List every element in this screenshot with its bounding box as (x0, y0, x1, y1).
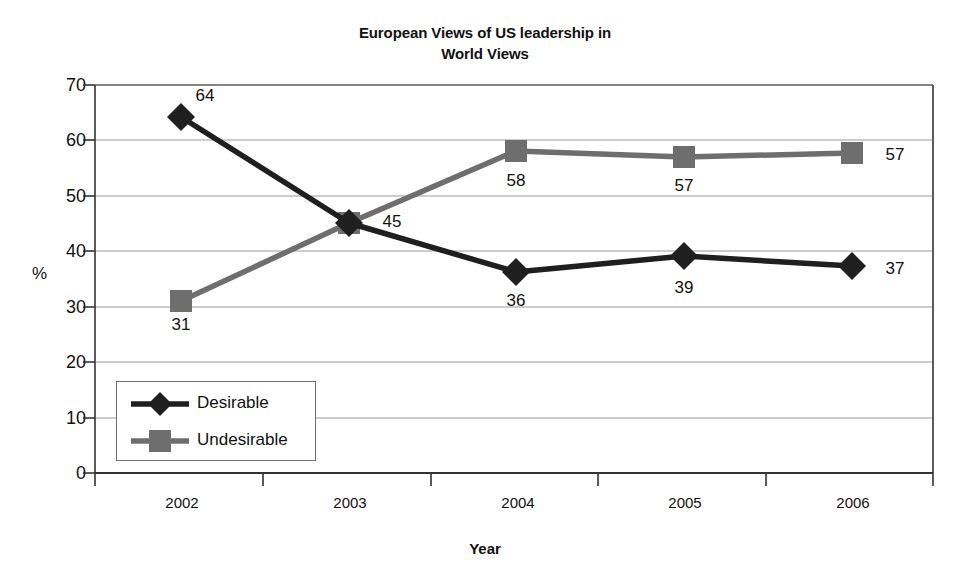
data-label-undesirable-2004: 58 (507, 171, 526, 191)
square-marker (673, 146, 695, 168)
chart-legend: Desirable Undesirable (116, 381, 316, 461)
data-label-undesirable-2005: 57 (675, 176, 694, 196)
legend-item-desirable: Desirable (117, 384, 317, 424)
data-label-undesirable-2002: 31 (172, 315, 191, 335)
square-marker-icon (129, 421, 191, 461)
line-chart: European Views of US leadership in World… (0, 0, 970, 583)
data-label-crossing-2003: 45 (383, 212, 402, 232)
plot-area (0, 0, 970, 583)
y-axis-ticks (83, 85, 95, 473)
square-marker (170, 290, 192, 312)
diamond-marker (502, 258, 530, 286)
data-label-desirable-2004: 36 (507, 291, 526, 311)
data-label-desirable-2005: 39 (675, 278, 694, 298)
legend-item-undesirable: Undesirable (117, 421, 317, 461)
legend-label-undesirable: Undesirable (197, 430, 288, 450)
square-marker (505, 140, 527, 162)
data-label-desirable-2006: 37 (886, 259, 905, 279)
data-label-undesirable-2006: 57 (886, 145, 905, 165)
diamond-marker (167, 103, 195, 131)
gridlines (95, 85, 933, 418)
x-axis-ticks (95, 473, 933, 486)
data-label-desirable-2002: 64 (196, 86, 215, 106)
series-undesirable (170, 140, 863, 312)
square-marker (841, 142, 863, 164)
diamond-marker-icon (129, 384, 191, 424)
diamond-marker (670, 242, 698, 270)
diamond-marker (838, 252, 866, 280)
legend-label-desirable: Desirable (197, 393, 269, 413)
